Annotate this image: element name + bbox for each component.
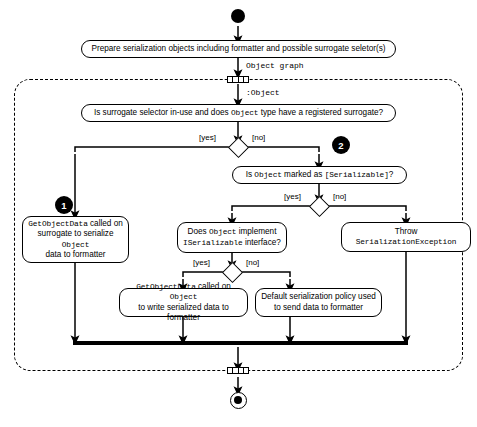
- action-default-serialization-policy-label: Default serialization policy used to sen…: [261, 292, 376, 313]
- guard-iserializable-yes: [yes]: [193, 258, 210, 267]
- decision-question-serializable-attribute[interactable]: Is Object marked as [Serializable]?: [232, 166, 407, 184]
- guard-serializable-yes: [yes]: [284, 192, 301, 201]
- decision-question-surrogate-selector-label: Is surrogate selector in-use and does Ob…: [94, 108, 383, 119]
- diagram-canvas: Prepare serialization objects including …: [0, 0, 477, 427]
- decision-question-serializable-attribute-label: Is Object marked as [Serializable]?: [246, 170, 394, 181]
- action-prepare-serialization[interactable]: Prepare serialization objects including …: [81, 40, 396, 58]
- badge-marker-2: 2: [332, 136, 350, 154]
- end-node: [230, 392, 247, 409]
- action-object-getobjectdata[interactable]: GetObjectData called on Object to write …: [119, 288, 248, 317]
- start-node: [231, 9, 245, 23]
- frame-entry-pin-icon: [227, 76, 249, 83]
- merge-join-bar: [73, 341, 408, 345]
- decision-question-surrogate-selector[interactable]: Is surrogate selector in-use and does Ob…: [81, 104, 396, 122]
- decision-question-iserializable-interface[interactable]: Does Object implement ISerializable inte…: [177, 222, 287, 253]
- action-default-serialization-policy[interactable]: Default serialization policy used to sen…: [255, 288, 382, 317]
- action-surrogate-getobjectdata-label: GetObjectData called on surrogate to ser…: [28, 219, 123, 261]
- action-surrogate-getobjectdata[interactable]: GetObjectData called on surrogate to ser…: [22, 216, 129, 263]
- decision-question-iserializable-interface-label: Does Object implement ISerializable inte…: [183, 227, 281, 248]
- action-object-getobjectdata-label: GetObjectData called on Object to write …: [125, 282, 242, 324]
- guard-surrogate-no: [no]: [252, 133, 265, 142]
- action-throw-serialization-exception[interactable]: Throw SerializationException: [341, 222, 471, 252]
- flow-label-object-instance: :Object: [246, 88, 280, 97]
- action-prepare-serialization-label: Prepare serialization objects including …: [92, 44, 386, 55]
- flow-label-object-graph: Object graph: [246, 61, 304, 70]
- badge-marker-1: 1: [55, 196, 73, 214]
- frame-exit-pin-icon: [227, 367, 249, 374]
- guard-iserializable-no: [no]: [246, 258, 259, 267]
- guard-surrogate-yes: [yes]: [199, 133, 216, 142]
- guard-serializable-no: [no]: [333, 192, 346, 201]
- action-throw-serialization-exception-label: Throw SerializationException: [356, 227, 457, 248]
